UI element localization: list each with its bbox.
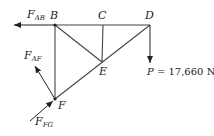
force-ab-label: FAB: [26, 8, 45, 22]
truss-diagram: B C D E F FAB FAF FFG P = 17,660 N: [0, 0, 214, 136]
joint-label-c: C: [98, 9, 107, 22]
joint-label-f: F: [57, 99, 66, 112]
force-af-arrow: [35, 66, 55, 99]
truss-members: [55, 25, 150, 99]
joint-label-b: B: [49, 9, 58, 22]
force-fg-label: FFG: [34, 115, 53, 129]
member-ce: [102, 25, 103, 62]
force-af-label: FAF: [23, 49, 43, 63]
joint-label-d: D: [144, 9, 154, 22]
member-be: [55, 25, 102, 62]
load-p-label: P = 17,660 N: [146, 66, 214, 77]
joint-label-e: E: [98, 65, 107, 78]
